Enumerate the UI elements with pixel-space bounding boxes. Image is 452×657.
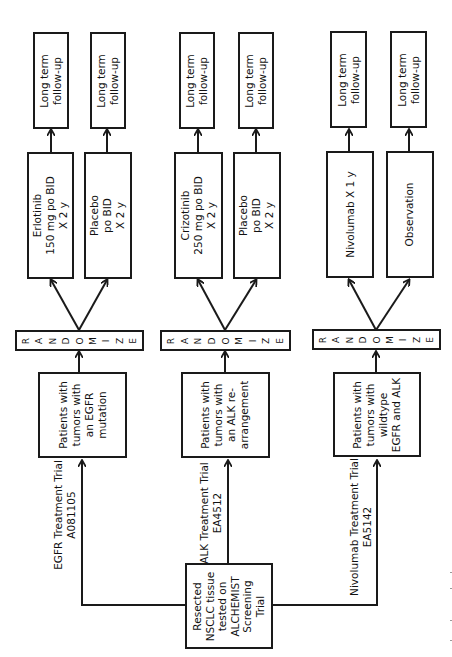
randomize-letter: E xyxy=(275,336,285,346)
arm-line: Crizotinib xyxy=(179,176,192,254)
randomize-letter: Z xyxy=(412,335,422,345)
arm-line: X 2 y xyxy=(57,176,70,254)
arm-line: X 2 y xyxy=(114,195,127,236)
screening-line: Screening xyxy=(242,571,255,640)
arm-line: po BID xyxy=(250,195,263,236)
arm-box-nivolumab: Nivolumab X 1 y xyxy=(326,151,374,278)
followup-line: Long term xyxy=(38,54,51,108)
randomize-letter: M xyxy=(88,336,98,346)
trial-label-alk: ALK Treatment TrialEA4512 xyxy=(196,465,226,560)
randomize-letter: D xyxy=(207,336,217,346)
trial-label-nivolumab: Nivolumab Treatment TrialEA5142 xyxy=(346,462,376,592)
followup-line: Long term xyxy=(184,54,197,108)
followup-line: Long term xyxy=(243,54,256,108)
randomize-letter: O xyxy=(372,335,382,345)
randomize-letter: I xyxy=(101,336,111,346)
arm-line: Erlotinib xyxy=(31,176,44,254)
trial-label-line: ALK Treatment Trial xyxy=(198,462,211,563)
population-line: Patients with xyxy=(200,381,213,450)
randomize-letter: I xyxy=(398,335,408,345)
followup-box-alk-placebo: Long termfollow-up xyxy=(238,32,274,129)
randomize-letter: M xyxy=(234,336,244,346)
followup-line: follow-up xyxy=(409,53,422,107)
trial-label-egfr: EGFR Treatment TrialA081105 xyxy=(50,465,80,565)
randomize-letter: A xyxy=(180,336,190,346)
screening-line: ALCHEMIST xyxy=(229,571,242,640)
arm-line: Placebo xyxy=(237,195,250,236)
population-line: Patients with xyxy=(351,377,364,451)
population-line: EGFR and ALK xyxy=(390,377,403,451)
followup-box-alk-crizotinib: Long termfollow-up xyxy=(179,32,215,129)
randomize-box-alk: RANDOMIZE xyxy=(160,330,291,351)
followup-line: follow-up xyxy=(108,54,121,108)
randomize-letter: E xyxy=(425,335,435,345)
followup-line: follow-up xyxy=(256,54,269,108)
population-box-nivolumab: Patients withtumors withwildtypeEGFR and… xyxy=(333,372,421,457)
trial-label-line: A081105 xyxy=(65,460,78,570)
followup-box-nivolumab: Long termfollow-up xyxy=(330,31,367,128)
randomize-letter: R xyxy=(318,335,328,345)
randomize-letter: E xyxy=(128,336,138,346)
population-line: arrangement xyxy=(239,381,252,450)
arm-line: 250 mg po BID xyxy=(192,176,205,254)
followup-line: Long term xyxy=(396,53,409,107)
randomize-box-egfr: RANDOMIZE xyxy=(15,330,144,351)
randomize-letter: O xyxy=(75,336,85,346)
population-line: wildtype xyxy=(377,377,390,451)
randomize-letter: D xyxy=(358,335,368,345)
arm-box-crizotinib: Crizotinib250 mg po BIDX 2 y xyxy=(174,152,223,279)
randomize-letter: N xyxy=(48,336,58,346)
screening-line: Resected xyxy=(192,571,205,640)
arm-line: X 2 y xyxy=(263,195,276,236)
population-line: an ALK re- xyxy=(226,381,239,450)
arm-line: 150 mg po BID xyxy=(44,176,57,254)
trial-label-line: Nivolumab Treatment Trial xyxy=(348,458,361,596)
screening-line: tested on xyxy=(217,571,230,640)
arm-box-alk-placebo: Placebopo BIDX 2 y xyxy=(233,152,281,279)
population-line: an EGFR xyxy=(83,381,96,449)
followup-line: Long term xyxy=(95,54,108,108)
population-line: tumors with xyxy=(213,381,226,450)
randomize-letter: A xyxy=(331,335,341,345)
arm-line: X 2 y xyxy=(205,176,218,254)
arm-box-observation: Observation xyxy=(386,151,434,278)
randomize-letter: N xyxy=(345,335,355,345)
followup-line: follow-up xyxy=(349,53,362,107)
followup-box-observation: Long termfollow-up xyxy=(390,31,427,128)
trial-label-line: EA4512 xyxy=(211,462,224,563)
followup-line: Long term xyxy=(336,53,349,107)
screening-line: NSCLC tissue xyxy=(204,571,217,640)
population-box-egfr: Patients withtumors withan EGFRmutation xyxy=(38,372,127,458)
population-line: Patients with xyxy=(57,381,70,449)
randomize-letter: D xyxy=(61,336,71,346)
randomize-letter: O xyxy=(221,336,231,346)
arm-box-egfr-placebo: Placebopo BIDX 2 y xyxy=(84,152,132,279)
population-line: mutation xyxy=(96,381,109,449)
randomize-letter: I xyxy=(248,336,258,346)
screening-box: Resected NSCLC tissue tested on ALCHEMIS… xyxy=(185,563,273,649)
followup-line: follow-up xyxy=(51,54,64,108)
randomize-box-nivolumab: RANDOMIZE xyxy=(312,329,441,350)
followup-line: follow-up xyxy=(197,54,210,108)
trial-label-line: EA5142 xyxy=(361,458,374,596)
population-line: tumors with xyxy=(364,377,377,451)
randomize-letter: M xyxy=(385,335,395,345)
trial-label-line: EGFR Treatment Trial xyxy=(52,460,65,570)
randomize-letter: Z xyxy=(115,336,125,346)
arm-line: Placebo xyxy=(88,195,101,236)
arm-box-erlotinib: Erlotinib150 mg po BIDX 2 y xyxy=(27,152,74,279)
randomize-letter: R xyxy=(21,336,31,346)
arm-line: Nivolumab X 1 y xyxy=(344,171,357,257)
arm-line: Observation xyxy=(404,183,417,247)
arm-line: po BID xyxy=(101,195,114,236)
population-line: tumors with xyxy=(70,381,83,449)
population-box-alk: Patients withtumors withan ALK re-arrang… xyxy=(181,372,270,458)
followup-box-egfr-placebo: Long termfollow-up xyxy=(90,32,126,129)
followup-box-egfr-erlotinib: Long termfollow-up xyxy=(33,32,69,129)
screening-line: Trial xyxy=(254,571,267,640)
randomize-letter: R xyxy=(166,336,176,346)
randomize-letter: Z xyxy=(261,336,271,346)
randomize-letter: A xyxy=(34,336,44,346)
randomize-letter: N xyxy=(193,336,203,346)
